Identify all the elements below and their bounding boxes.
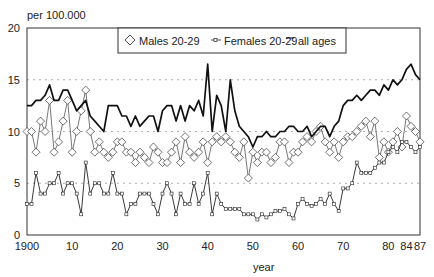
square-marker-icon	[220, 202, 223, 205]
series-males-20-29	[23, 86, 424, 182]
x-tick-label: 1900	[15, 240, 39, 252]
square-marker-icon	[161, 192, 164, 195]
square-marker-icon	[39, 192, 42, 195]
diamond-marker-icon	[262, 148, 270, 156]
diamond-marker-icon	[199, 138, 207, 146]
square-marker-icon	[391, 146, 394, 149]
diamond-marker-icon	[393, 128, 401, 136]
diamond-marker-icon	[59, 117, 67, 125]
square-marker-icon	[184, 202, 187, 205]
square-marker-icon	[107, 192, 110, 195]
square-marker-icon	[387, 151, 390, 154]
diamond-marker-icon	[204, 159, 212, 167]
diamond-marker-icon	[172, 138, 180, 146]
diamond-marker-icon	[330, 138, 338, 146]
diamond-marker-icon	[285, 159, 293, 167]
square-marker-icon	[414, 151, 417, 154]
square-marker-icon	[175, 213, 178, 216]
square-marker-icon	[35, 171, 38, 174]
square-marker-icon	[179, 192, 182, 195]
diamond-marker-icon	[86, 128, 94, 136]
x-tick-label: 50	[247, 240, 259, 252]
x-axis-ticks: 190010203040506070808487	[15, 240, 426, 252]
square-marker-icon	[419, 146, 422, 149]
square-marker-icon	[138, 192, 141, 195]
square-marker-icon	[197, 202, 200, 205]
square-marker-icon	[346, 187, 349, 190]
series-females-20-29	[26, 140, 422, 221]
diamond-marker-icon	[280, 138, 288, 146]
diamond-marker-icon	[91, 148, 99, 156]
x-tick-label: 80	[382, 240, 394, 252]
x-tick-label: 70	[337, 240, 349, 252]
diamond-marker-icon	[95, 138, 103, 146]
diamond-marker-icon	[402, 112, 410, 120]
x-tick-label: 87	[414, 240, 426, 252]
chart: per 100.000 05101520 1900102030405060708…	[0, 0, 434, 277]
diamond-marker-icon	[163, 159, 171, 167]
square-marker-icon	[274, 210, 277, 213]
square-marker-icon	[342, 187, 345, 190]
diamond-marker-icon	[50, 148, 58, 156]
diamond-marker-icon	[326, 148, 334, 156]
square-marker-icon	[315, 202, 318, 205]
square-marker-icon	[152, 202, 155, 205]
x-tick-label: 10	[66, 240, 78, 252]
diamond-marker-icon	[73, 128, 81, 136]
square-marker-icon	[360, 171, 363, 174]
diamond-marker-icon	[321, 138, 329, 146]
square-marker-icon	[75, 192, 78, 195]
square-marker-icon	[166, 182, 169, 185]
square-marker-icon	[355, 161, 358, 164]
square-marker-icon	[147, 192, 150, 195]
square-marker-icon	[288, 213, 291, 216]
square-marker-icon	[98, 182, 101, 185]
diamond-marker-icon	[375, 153, 383, 161]
diamond-marker-icon	[82, 86, 90, 94]
diamond-marker-icon	[37, 117, 45, 125]
square-marker-icon	[378, 161, 381, 164]
diamond-marker-icon	[131, 159, 139, 167]
diamond-marker-icon	[371, 117, 379, 125]
square-marker-icon	[269, 213, 272, 216]
diamond-marker-icon	[28, 128, 36, 136]
square-marker-icon	[297, 202, 300, 205]
square-marker-icon	[310, 205, 313, 208]
y-tick-label: 5	[14, 177, 20, 189]
square-marker-icon	[265, 216, 268, 219]
square-marker-icon	[84, 161, 87, 164]
square-marker-icon	[129, 202, 132, 205]
legend-label-females: Females 20-29	[224, 35, 297, 47]
diamond-marker-icon	[366, 133, 374, 141]
square-marker-icon	[211, 213, 214, 216]
x-axis-label: year	[253, 261, 275, 273]
square-marker-icon	[57, 171, 60, 174]
square-marker-icon	[251, 213, 254, 216]
diamond-marker-icon	[389, 138, 397, 146]
square-marker-icon	[301, 197, 304, 200]
square-marker-icon	[396, 151, 399, 154]
square-marker-icon	[62, 192, 65, 195]
square-marker-icon	[53, 182, 56, 185]
diamond-marker-icon	[398, 143, 406, 151]
square-marker-icon	[111, 171, 114, 174]
square-marker-icon	[229, 208, 232, 211]
y-tick-label: 20	[8, 22, 20, 34]
diamond-marker-icon	[380, 138, 388, 146]
square-marker-icon	[369, 171, 372, 174]
square-marker-icon	[256, 218, 259, 221]
square-marker-icon	[116, 192, 119, 195]
x-tick-label: 30	[156, 240, 168, 252]
square-marker-icon	[66, 182, 69, 185]
x-tick-label: 40	[202, 240, 214, 252]
square-marker-icon	[193, 182, 196, 185]
diamond-marker-icon	[68, 148, 76, 156]
legend-label-males: Males 20-29	[139, 35, 200, 47]
square-marker-icon	[337, 210, 340, 213]
square-marker-icon	[260, 213, 263, 216]
square-marker-icon	[238, 208, 241, 211]
square-marker-icon	[405, 140, 408, 143]
square-marker-icon	[233, 208, 236, 211]
square-marker-icon	[120, 192, 123, 195]
x-tick-label: 20	[111, 240, 123, 252]
